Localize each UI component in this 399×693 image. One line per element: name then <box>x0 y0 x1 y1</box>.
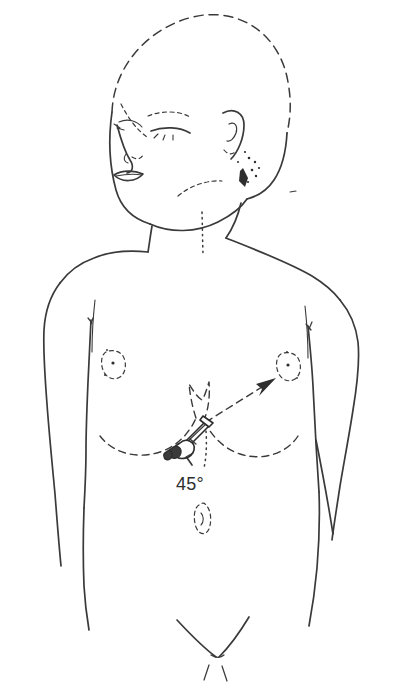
ear-lobe <box>224 150 236 154</box>
eyebrow-tail <box>290 191 296 192</box>
hub-base-cap <box>164 451 173 460</box>
chest-contour-right <box>305 306 308 358</box>
xiphoid-process <box>189 382 209 420</box>
stippled-hair-patch <box>237 151 260 187</box>
lip-line <box>116 174 142 176</box>
eyebrow <box>178 181 222 196</box>
closed-eye-right-lash <box>154 134 173 140</box>
nostril <box>132 155 143 159</box>
illustration-canvas: 45° <box>0 0 399 693</box>
head-outline <box>110 112 150 224</box>
nose <box>117 125 132 173</box>
left-nipple <box>102 349 126 379</box>
dashed-costal-margin <box>100 382 298 457</box>
umbilicus <box>194 503 210 534</box>
right-arm-inner <box>308 326 319 492</box>
left-shoulder <box>60 251 148 283</box>
arms-group <box>44 283 359 566</box>
torso-right-flank <box>309 492 319 626</box>
needle-direction-arrow <box>206 378 276 422</box>
upper-lid-crease <box>148 112 190 117</box>
dashed-hairline <box>112 15 290 133</box>
closed-eye-left <box>119 120 142 127</box>
left-arm-inner <box>84 320 91 508</box>
right-nipple <box>277 351 301 381</box>
suprasternal-notch-dots <box>202 212 203 256</box>
head-outline-right <box>247 133 287 199</box>
angle-label: 45° <box>176 474 204 494</box>
torso-group <box>83 300 319 630</box>
medical-line-drawing: 45° <box>0 0 399 693</box>
neck-left <box>148 226 152 252</box>
chest-contour-left <box>92 300 95 352</box>
left-arm-outer <box>44 283 61 566</box>
ear-antihelix <box>227 123 237 141</box>
closed-eye-right <box>151 128 190 133</box>
right-shoulder <box>226 238 340 300</box>
inguinal-creases <box>177 617 249 681</box>
torso-left-flank <box>83 508 89 630</box>
neck-shoulder-group <box>60 203 340 300</box>
head-group <box>110 15 296 231</box>
right-arm-outer <box>332 300 359 540</box>
